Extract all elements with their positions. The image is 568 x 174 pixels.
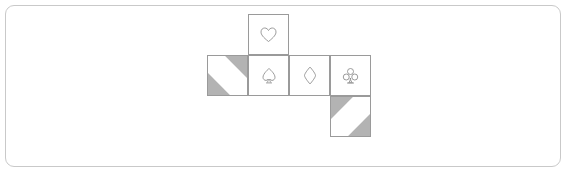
cube-net-diagram <box>0 0 568 174</box>
heart-icon <box>249 15 288 54</box>
net-face-spade[interactable] <box>248 55 289 96</box>
net-face-blank-left[interactable] <box>207 55 248 96</box>
club-icon <box>331 56 370 95</box>
diagonal-shading <box>331 97 370 136</box>
screenshot-root <box>0 0 568 174</box>
spade-icon <box>249 56 288 95</box>
net-face-club[interactable] <box>330 55 371 96</box>
net-face-blank-bottom[interactable] <box>330 96 371 137</box>
net-face-diamond[interactable] <box>289 55 330 96</box>
net-face-heart[interactable] <box>248 14 289 55</box>
diamond-icon <box>290 56 329 95</box>
diagonal-shading <box>208 56 247 95</box>
